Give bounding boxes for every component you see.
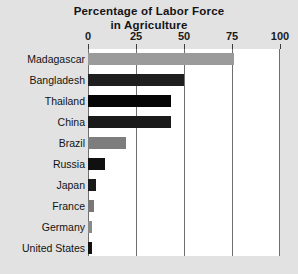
x-tick-label-100: 100 <box>271 30 289 43</box>
bar-row <box>88 217 280 238</box>
category-label-thailand: Thailand <box>0 91 85 112</box>
bar-row <box>88 70 280 91</box>
bar-row <box>88 238 280 259</box>
category-label-brazil: Brazil <box>0 133 85 154</box>
bar-row <box>88 196 280 217</box>
category-label-russia: Russia <box>0 154 85 175</box>
bar-row <box>88 112 280 133</box>
bar-france <box>88 200 94 212</box>
category-label-japan: Japan <box>0 175 85 196</box>
x-axis-tick-labels: 0255075100 <box>0 30 298 44</box>
bar-russia <box>88 158 105 170</box>
bar-germany <box>88 221 92 233</box>
category-axis-labels: MadagascarBangladeshThailandChinaBrazilR… <box>0 49 85 256</box>
bar-japan <box>88 179 96 191</box>
bar-row <box>88 49 280 70</box>
x-tick-label-0: 0 <box>85 30 91 43</box>
category-label-united-states: United States <box>0 238 85 259</box>
bar-thailand <box>88 95 171 107</box>
bar-china <box>88 116 171 128</box>
chart-title: Percentage of Labor Force in Agriculture <box>0 4 298 32</box>
category-label-china: China <box>0 112 85 133</box>
bars-layer <box>88 49 280 256</box>
bar-row <box>88 154 280 175</box>
category-label-madagascar: Madagascar <box>0 49 85 70</box>
bar-chart: Percentage of Labor Force in Agriculture… <box>0 0 298 274</box>
bar-madagascar <box>88 53 234 65</box>
bar-row <box>88 175 280 196</box>
bar-united-states <box>88 242 92 254</box>
category-label-bangladesh: Bangladesh <box>0 70 85 91</box>
x-tick-label-25: 25 <box>130 30 142 43</box>
bar-bangladesh <box>88 74 184 86</box>
x-tick-label-75: 75 <box>226 30 238 43</box>
category-label-germany: Germany <box>0 217 85 238</box>
x-tick-label-50: 50 <box>178 30 190 43</box>
category-label-france: France <box>0 196 85 217</box>
bar-row <box>88 133 280 154</box>
bar-brazil <box>88 137 126 149</box>
chart-title-line-1: Percentage of Labor Force <box>0 4 298 18</box>
x-tick-mark-100 <box>280 44 281 49</box>
bar-row <box>88 91 280 112</box>
